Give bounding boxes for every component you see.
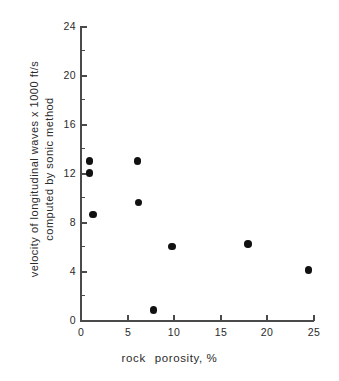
- x-tick-25: [313, 315, 315, 321]
- y-axis-title-line2: computed by sonic method: [42, 9, 57, 329]
- y-minor-tick-22: [81, 50, 85, 51]
- y-minor-tick-2: [81, 295, 85, 296]
- x-tick-label-10: 10: [164, 326, 184, 338]
- y-tick-8: [81, 222, 87, 224]
- y-tick-20: [81, 75, 87, 77]
- data-point: [89, 211, 97, 219]
- data-point: [86, 157, 94, 165]
- x-axis-title-part2: porosity, %: [155, 352, 218, 364]
- y-tick-4: [81, 271, 87, 273]
- x-tick-label-15: 15: [211, 326, 231, 338]
- x-tick-label-25: 25: [304, 326, 324, 338]
- y-tick-24: [81, 26, 87, 28]
- x-tick-0: [80, 315, 82, 321]
- x-axis-title: rockporosity, %: [0, 352, 339, 364]
- y-axis-title-line1: velocity of longitudinal waves x 1000 ft…: [27, 9, 42, 329]
- y-minor-tick-10: [81, 197, 85, 198]
- scatter-plot-figure: 24 20 16 12 8 4 0 0 5 10 15 20 25 veloci…: [0, 0, 339, 381]
- x-tick-15: [220, 315, 222, 321]
- data-point: [134, 157, 142, 165]
- x-tick-label-5: 5: [118, 326, 138, 338]
- x-tick-5: [127, 315, 129, 321]
- data-point: [168, 243, 176, 251]
- y-minor-tick-18: [81, 99, 85, 100]
- x-tick-label-20: 20: [257, 326, 277, 338]
- data-point: [305, 266, 313, 274]
- data-point: [135, 199, 143, 207]
- x-axis-title-part1: rock: [122, 352, 146, 364]
- data-point: [86, 169, 94, 177]
- y-axis-title: velocity of longitudinal waves x 1000 ft…: [27, 9, 61, 329]
- data-point: [150, 306, 158, 314]
- x-tick-20: [266, 315, 268, 321]
- data-point: [244, 240, 252, 248]
- y-tick-16: [81, 124, 87, 126]
- x-axis-line: [80, 320, 314, 322]
- y-minor-tick-14: [81, 148, 85, 149]
- x-tick-10: [173, 315, 175, 321]
- y-minor-tick-6: [81, 246, 85, 247]
- y-tick-0: [81, 320, 87, 322]
- x-tick-label-0: 0: [71, 326, 91, 338]
